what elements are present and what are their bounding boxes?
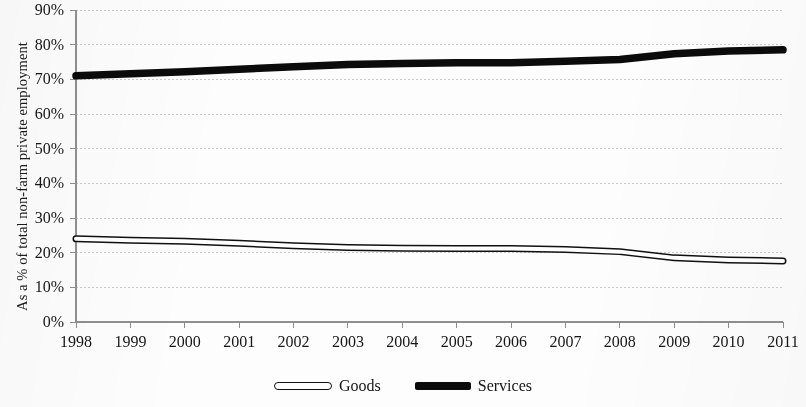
legend-item-services: Services: [415, 378, 532, 394]
legend-label-goods: Goods: [339, 378, 381, 394]
solid-bar-icon: [415, 382, 471, 390]
legend-item-goods: Goods: [274, 378, 381, 394]
legend-label-services: Services: [478, 378, 532, 394]
chart-legend: Goods Services: [0, 378, 806, 394]
y-axis-tickmarks: [70, 10, 76, 322]
plot-area: [0, 0, 806, 407]
x-axis-tickmarks: [76, 322, 783, 328]
data-series-layer: [76, 50, 783, 261]
hollow-capsule-icon: [274, 382, 332, 390]
line-chart: As a % of total non-farm private employm…: [0, 0, 806, 407]
